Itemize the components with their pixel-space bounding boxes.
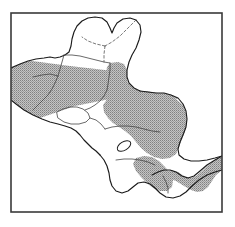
distribution-map-figure: Central America — [0, 0, 235, 227]
map-svg-canvas — [0, 0, 235, 227]
